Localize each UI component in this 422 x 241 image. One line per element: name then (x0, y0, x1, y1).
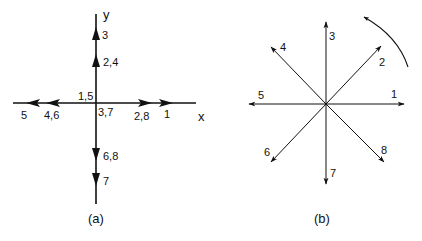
y-axis-label: y (103, 7, 110, 22)
direction-3-label: 3 (329, 30, 335, 42)
arrowhead-down-icon (92, 173, 100, 186)
label-y-up-near: 2,4 (103, 56, 118, 68)
arrowhead-up-icon (92, 27, 100, 40)
label-x-left-near: 4,6 (44, 109, 59, 121)
label-origin-upper: 1,5 (78, 90, 93, 102)
direction-8-label: 8 (381, 144, 387, 156)
rotation-arrow-icon (364, 17, 408, 67)
caption-b: (b) (314, 211, 330, 226)
direction-6-arrow (271, 104, 326, 162)
direction-4-label: 4 (280, 41, 286, 53)
direction-8-arrow (326, 104, 384, 162)
direction-2-arrow (326, 46, 381, 104)
direction-6-label: 6 (264, 146, 270, 158)
label-x-right-near: 2,8 (134, 110, 149, 122)
caption-a: (a) (88, 211, 104, 226)
x-axis-label: x (198, 109, 205, 124)
direction-7-label: 7 (330, 167, 336, 179)
direction-2-label: 2 (379, 56, 385, 68)
diagram-canvas: y x 3 2,4 1,5 3,7 6,8 7 5 4,6 2,8 1 (a) … (0, 0, 422, 241)
label-x-left-far: 5 (21, 109, 27, 121)
label-y-down-near: 6,8 (103, 150, 118, 162)
panel-b: 1 2 3 4 5 6 7 8 (b) (249, 17, 408, 226)
direction-4-arrow (271, 47, 326, 104)
label-y-up-far: 3 (102, 29, 108, 41)
label-x-right-far: 1 (164, 108, 170, 120)
direction-5-label: 5 (258, 89, 264, 101)
label-origin-lower: 3,7 (98, 106, 113, 118)
direction-1-label: 1 (391, 88, 397, 100)
arrowhead-down-icon (92, 148, 100, 161)
arrowhead-up-icon (92, 54, 100, 67)
label-y-down-far: 7 (103, 175, 109, 187)
panel-a: y x 3 2,4 1,5 3,7 6,8 7 5 4,6 2,8 1 (a) (13, 7, 205, 226)
